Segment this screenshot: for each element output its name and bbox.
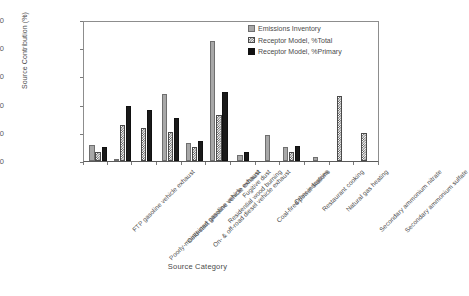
y-tick-label: 40 — [0, 45, 4, 53]
bar — [126, 106, 131, 161]
bar — [237, 155, 242, 161]
bar-group — [207, 22, 231, 161]
bar-group — [352, 22, 376, 161]
y-axis-title: Source Contribution (%) — [21, 0, 28, 116]
bar — [361, 133, 366, 161]
bar — [174, 118, 179, 161]
bar — [198, 141, 203, 161]
x-tick-mark — [83, 162, 84, 165]
bar-group — [183, 22, 207, 161]
bar — [95, 152, 100, 161]
bar — [186, 143, 191, 161]
legend-item-label: Emissions Inventory — [258, 25, 321, 32]
bar — [141, 128, 146, 161]
legend-item-receptor-model-total: Receptor Model, %Total — [248, 37, 342, 44]
legend-item-label: Receptor Model, %Total — [258, 37, 332, 44]
bar — [147, 110, 152, 161]
legend-item-label: Receptor Model, %Primary — [258, 48, 342, 55]
y-tick-label: 20 — [0, 102, 4, 110]
bar — [295, 146, 300, 161]
bar — [162, 94, 167, 161]
y-tick-label: 10 — [0, 130, 4, 138]
x-category-label: Other industries — [293, 168, 330, 205]
x-category-label: FTP gasoline vehicle exhaust — [131, 168, 196, 233]
legend-item-emissions-inventory: Emissions Inventory — [248, 25, 342, 32]
y-tick-label: 50 — [0, 17, 4, 25]
bar-group — [159, 22, 183, 161]
bar — [120, 125, 125, 161]
x-tick-mark — [378, 162, 379, 165]
bar-group — [134, 22, 158, 161]
y-tick-label: 30 — [0, 73, 4, 81]
x-axis-category-labels: FTP gasoline vehicle exhaustPoorly-maint… — [83, 166, 379, 254]
legend-item-receptor-model-primary: Receptor Model, %Primary — [248, 48, 342, 55]
bar — [283, 147, 288, 161]
bar — [337, 96, 342, 161]
legend-swatch-icon — [248, 48, 255, 55]
chart-legend: Emissions Inventory Receptor Model, %Tot… — [248, 25, 342, 55]
y-tick-label: 0 — [0, 158, 4, 166]
bar — [222, 92, 227, 161]
bar — [192, 147, 197, 161]
bar — [216, 115, 221, 161]
bar — [313, 157, 318, 161]
bar — [289, 152, 294, 161]
x-axis-title: Source Category — [0, 262, 395, 271]
bar-group — [86, 22, 110, 161]
bar — [265, 135, 270, 161]
bar — [210, 41, 215, 161]
bar-group — [110, 22, 134, 161]
legend-swatch-icon — [248, 37, 255, 44]
bar — [89, 145, 94, 161]
bar — [168, 132, 173, 161]
bar — [114, 159, 119, 161]
bar — [244, 152, 249, 161]
bar — [102, 147, 107, 161]
legend-swatch-icon — [248, 25, 255, 32]
